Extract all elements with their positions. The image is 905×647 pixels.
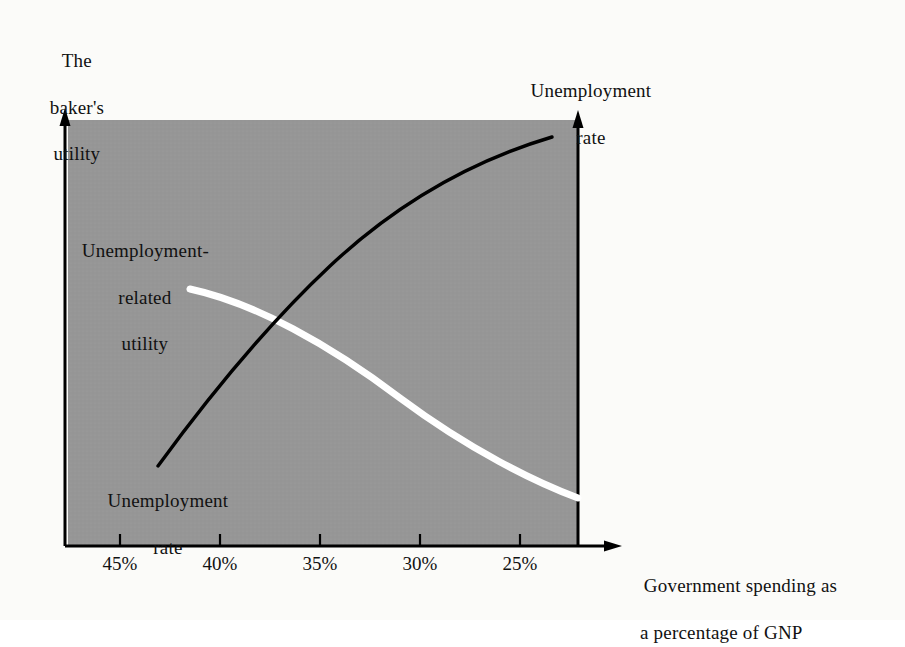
x-tick-label-3: 30% [380,553,460,575]
x-axis-arrowhead [604,541,622,552]
x-tick-label-1: 40% [180,553,260,575]
x-tick-label-2: 35% [280,553,360,575]
x-axis-label-line1: Government spending as [644,575,837,596]
y-axis-label: The baker's utility [8,26,126,188]
y2-axis-label-line2: rate [576,127,605,148]
x-tick-label-0: 45% [80,553,160,575]
series-annotation-unemployment-line1: Unemployment [108,490,229,511]
series-annotation-utility: Unemployment- related utility [62,216,208,378]
y2-axis-label: Unemployment rate [486,56,676,172]
y-axis-label-line1: The [62,50,92,71]
x-axis-label-line2: a percentage of GNP [624,621,894,644]
series-annotation-utility-line2: related [118,287,171,308]
x-tick-label-4: 25% [480,553,560,575]
y-axis-label-line3: utility [54,143,101,164]
x-axis-label: Government spending as a percentage of G… [624,551,894,647]
y2-axis-label-line1: Unemployment [531,80,652,101]
y-axis-label-line2: baker's [50,97,104,118]
series-annotation-utility-line3: utility [122,333,169,354]
series-annotation-utility-line1: Unemployment- [82,240,209,261]
